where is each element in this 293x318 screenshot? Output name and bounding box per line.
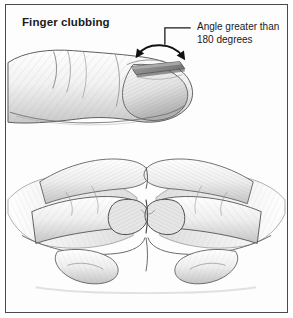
- right-hand: [144, 159, 285, 284]
- figure-title: Finger clubbing: [22, 16, 110, 28]
- illustration-artwork: [6, 5, 287, 312]
- angle-annotation-label: Angle greater than 180 degrees: [197, 21, 279, 46]
- annotation-line-2: 180 degrees: [197, 34, 279, 47]
- schamroth-window-illustration: [8, 159, 285, 293]
- left-hand: [8, 159, 149, 284]
- lateral-clubbed-finger-illustration: [8, 50, 193, 125]
- figure-panel: Finger clubbing Angle greater than 180 d…: [5, 4, 288, 313]
- annotation-line-1: Angle greater than: [197, 21, 279, 34]
- angle-arrow: [138, 45, 183, 56]
- angle-leader-line: [165, 28, 191, 45]
